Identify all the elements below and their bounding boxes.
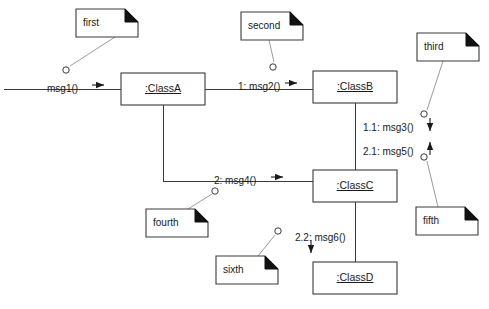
message-label-msg1: msg1() [47, 84, 78, 94]
leader-fourth [188, 194, 212, 209]
leader-sixth [258, 235, 275, 256]
leader-second [269, 40, 274, 62]
anchor-third-icon [421, 111, 427, 117]
link-classA-classC [163, 105, 313, 181]
note-label-fourth: fourth [153, 218, 179, 228]
note-label-third: third [424, 42, 443, 52]
leader-third [427, 61, 443, 110]
leader-first [70, 37, 115, 66]
message-label-msg2: 1: msg2() [238, 82, 280, 92]
message-label-msg5: 2.1: msg5() [363, 147, 414, 157]
note-fold-icon-fourth [195, 209, 208, 222]
lifeline-label-classD: :ClassD [337, 272, 374, 283]
diagram-vector-layer [0, 0, 489, 309]
note-label-first: first [83, 18, 99, 28]
note-fold-icon-sixth [265, 256, 278, 269]
note-fold-icon-second [290, 12, 303, 25]
lifeline-label-classA: :ClassA [145, 83, 181, 94]
message-label-msg4: 2: msg4() [214, 176, 256, 186]
message-label-msg3: 1.1: msg3() [363, 123, 414, 133]
leader-fifth [427, 161, 438, 207]
note-label-second: second [248, 21, 280, 31]
anchor-first-icon [63, 67, 69, 73]
anchor-second-icon [270, 64, 276, 70]
lifeline-label-classC: :ClassC [337, 180, 374, 191]
note-fold-icon-third [466, 33, 479, 46]
note-fold-icon-first [125, 9, 138, 22]
anchor-fifth-icon [421, 154, 427, 160]
lifeline-label-classB: :ClassB [337, 81, 373, 92]
message-label-msg6: 2.2: msg6() [295, 233, 346, 243]
note-fold-icon-fifth [465, 207, 478, 220]
diagram-canvas: :ClassA:ClassB:ClassC:ClassDfirstsecondt… [0, 0, 489, 309]
note-label-sixth: sixth [223, 265, 244, 275]
note-label-fifth: fifth [423, 216, 439, 226]
anchor-sixth-icon [275, 228, 281, 234]
anchor-fourth-icon [212, 188, 218, 194]
